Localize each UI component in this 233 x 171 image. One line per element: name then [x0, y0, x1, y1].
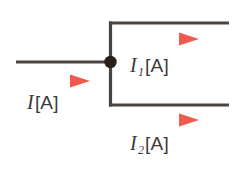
label-branch1-current: I1[A]	[130, 55, 169, 78]
label-branch2-current-subscript: 2	[138, 143, 145, 157]
label-branch1-current-symbol: I	[130, 54, 138, 76]
arrow-branch2-current-icon	[137, 114, 199, 127]
arrow-input-current-icon	[28, 75, 90, 88]
label-branch1-current-unit: [A]	[145, 55, 169, 76]
label-branch2-current: I2[A]	[130, 133, 169, 156]
circuit-diagram-canvas	[0, 0, 233, 171]
junction-node-icon	[104, 56, 116, 68]
arrow-branch1-current-icon	[137, 33, 199, 46]
circuit-diagram: I[A] I1[A] I2[A]	[0, 0, 233, 171]
label-input-current-unit: [A]	[35, 92, 59, 113]
label-branch2-current-symbol: I	[130, 132, 138, 154]
label-branch1-current-subscript: 1	[138, 65, 145, 79]
label-branch2-current-unit: [A]	[145, 133, 169, 154]
label-input-current: I[A]	[27, 92, 59, 112]
label-input-current-symbol: I	[27, 91, 35, 113]
